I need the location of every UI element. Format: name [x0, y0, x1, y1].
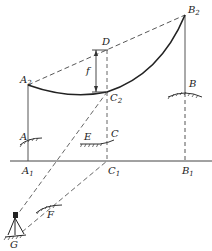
- label-c2: C2: [110, 92, 123, 105]
- label-f-point: F: [46, 209, 55, 220]
- sag-measurement-diagram: B2 D f A2 C2 B A E C A1 C1 B1 F G: [0, 0, 212, 251]
- label-b2: B2: [187, 4, 200, 17]
- label-f: f: [85, 65, 92, 76]
- label-c1: C1: [108, 165, 120, 178]
- sight-line-lower: [22, 161, 107, 232]
- label-b: B: [188, 78, 196, 89]
- label-c: C: [111, 128, 119, 139]
- label-a: A: [19, 131, 27, 142]
- label-b1: B1: [181, 165, 194, 178]
- arrow-up-icon: [94, 50, 98, 56]
- label-a1: A1: [21, 165, 34, 178]
- label-a2: A2: [19, 74, 32, 87]
- label-d: D: [101, 36, 110, 47]
- arrow-down-icon: [94, 86, 98, 92]
- theodolite-icon: [4, 212, 26, 240]
- label-e: E: [83, 131, 92, 142]
- conductor-curve: [28, 15, 185, 95]
- label-g: G: [10, 239, 18, 250]
